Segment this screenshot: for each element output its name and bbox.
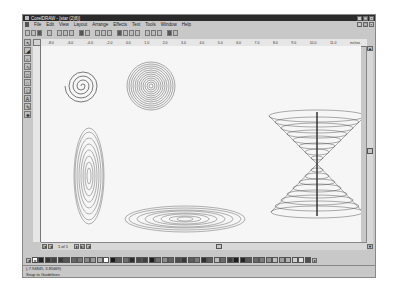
help-icon[interactable] — [167, 30, 172, 36]
open-icon[interactable] — [31, 30, 36, 36]
color-swatch[interactable] — [168, 257, 174, 263]
ellipse-tool-icon[interactable]: ○ — [24, 79, 31, 86]
options-icon[interactable] — [157, 30, 162, 36]
print-icon[interactable] — [47, 30, 52, 36]
color-swatch[interactable] — [162, 257, 168, 263]
vertical-scrollbar[interactable]: ▲ ▼ — [366, 46, 373, 249]
maximize-button[interactable]: □ — [363, 16, 368, 21]
to-back-icon[interactable] — [151, 30, 156, 36]
color-swatch[interactable] — [116, 257, 122, 263]
color-swatch[interactable] — [298, 257, 304, 263]
color-swatch[interactable] — [214, 257, 220, 263]
scroll-up-arrow-icon[interactable]: ▲ — [367, 46, 373, 51]
color-swatch[interactable] — [201, 257, 207, 263]
zoom-level-icon[interactable] — [107, 30, 112, 36]
save-icon[interactable] — [37, 30, 42, 36]
menu-arrange[interactable]: Arrange — [92, 22, 108, 27]
freehand-tool-icon[interactable]: ∿ — [24, 63, 31, 70]
to-front-icon[interactable] — [145, 30, 150, 36]
palette-scroll-left-icon[interactable]: ◂ — [26, 258, 31, 263]
menu-help[interactable]: Help — [182, 22, 191, 27]
doc-restore-button[interactable]: □ — [363, 22, 368, 27]
menu-file[interactable]: File — [34, 22, 41, 27]
wireframe-icon[interactable] — [117, 30, 122, 36]
color-swatch[interactable] — [58, 257, 64, 263]
color-swatch[interactable] — [45, 257, 51, 263]
menu-text[interactable]: Text — [132, 22, 140, 27]
color-swatch[interactable] — [233, 257, 239, 263]
color-swatch[interactable] — [64, 257, 70, 263]
color-swatch[interactable] — [123, 257, 129, 263]
minimize-button[interactable]: _ — [357, 16, 362, 21]
cut-icon[interactable] — [57, 30, 62, 36]
whats-this-icon[interactable] — [173, 30, 178, 36]
color-swatch[interactable] — [240, 257, 246, 263]
menu-view[interactable]: View — [59, 22, 69, 27]
ruler-corner[interactable] — [33, 39, 41, 46]
color-swatch[interactable] — [207, 257, 213, 263]
color-swatch[interactable] — [279, 257, 285, 263]
new-icon[interactable] — [25, 30, 30, 36]
color-swatch[interactable] — [285, 257, 291, 263]
color-swatch[interactable] — [77, 257, 83, 263]
color-swatch[interactable] — [188, 257, 194, 263]
horizontal-scroll-thumb[interactable] — [216, 244, 222, 249]
color-swatch[interactable] — [97, 257, 103, 263]
next-page-icon[interactable]: ▸ — [74, 244, 79, 249]
menu-layout[interactable]: Layout — [74, 22, 88, 27]
menu-tools[interactable]: Tools — [145, 22, 156, 27]
doc-close-button[interactable]: × — [369, 22, 374, 27]
vertical-scroll-thumb[interactable] — [367, 148, 373, 154]
color-swatch[interactable] — [266, 257, 272, 263]
menu-window[interactable]: Window — [161, 22, 177, 27]
color-swatch[interactable] — [90, 257, 96, 263]
polygon-tool-icon[interactable]: ⬠ — [24, 87, 31, 94]
text-tool-icon[interactable]: A — [24, 95, 31, 102]
last-page-icon[interactable]: ▸| — [80, 244, 85, 249]
color-swatch[interactable] — [142, 257, 148, 263]
color-swatch[interactable] — [194, 257, 200, 263]
menu-effects[interactable]: Effects — [113, 22, 127, 27]
palette-scroll-right-icon[interactable]: ▸ — [312, 258, 317, 263]
color-swatch[interactable] — [292, 257, 298, 263]
color-swatch[interactable] — [149, 257, 155, 263]
undo-icon[interactable] — [79, 30, 84, 36]
outline-tool-icon[interactable]: ✎ — [24, 103, 31, 110]
color-swatch[interactable] — [259, 257, 265, 263]
zoom-tool-icon[interactable]: ⌕ — [24, 55, 31, 62]
color-swatch[interactable] — [129, 257, 135, 263]
color-swatch[interactable] — [103, 257, 109, 263]
fullscreen-icon[interactable] — [123, 30, 128, 36]
color-swatch[interactable] — [84, 257, 90, 263]
rectangle-tool-icon[interactable]: □ — [24, 71, 31, 78]
scroll-left-arrow-icon[interactable]: ◂ — [86, 244, 91, 249]
document-icon[interactable] — [25, 22, 29, 27]
color-swatch[interactable] — [136, 257, 142, 263]
copy-icon[interactable] — [63, 30, 68, 36]
color-swatch[interactable] — [110, 257, 116, 263]
scroll-down-arrow-icon[interactable]: ▼ — [367, 244, 373, 249]
color-swatch[interactable] — [253, 257, 259, 263]
color-swatch[interactable] — [246, 257, 252, 263]
fill-tool-icon[interactable]: ◈ — [24, 111, 31, 118]
close-button[interactable]: × — [369, 16, 374, 21]
first-page-icon[interactable]: |◂ — [42, 244, 47, 249]
group-icon[interactable] — [129, 30, 134, 36]
drawing-canvas[interactable] — [41, 46, 361, 242]
no-fill-swatch[interactable]: ✕ — [32, 257, 38, 263]
ungroup-icon[interactable] — [135, 30, 140, 36]
color-swatch[interactable] — [220, 257, 226, 263]
color-swatch[interactable] — [38, 257, 44, 263]
color-swatch[interactable] — [51, 257, 57, 263]
color-swatch[interactable] — [155, 257, 161, 263]
color-swatch[interactable] — [71, 257, 77, 263]
import-icon[interactable] — [95, 30, 100, 36]
color-swatch[interactable] — [227, 257, 233, 263]
shape-tool-icon[interactable]: ◢ — [24, 47, 31, 54]
color-swatch[interactable] — [272, 257, 278, 263]
export-icon[interactable] — [101, 30, 106, 36]
menu-edit[interactable]: Edit — [46, 22, 54, 27]
pick-tool-icon[interactable]: ↖ — [24, 39, 31, 46]
redo-icon[interactable] — [85, 30, 90, 36]
color-swatch[interactable] — [305, 257, 311, 263]
